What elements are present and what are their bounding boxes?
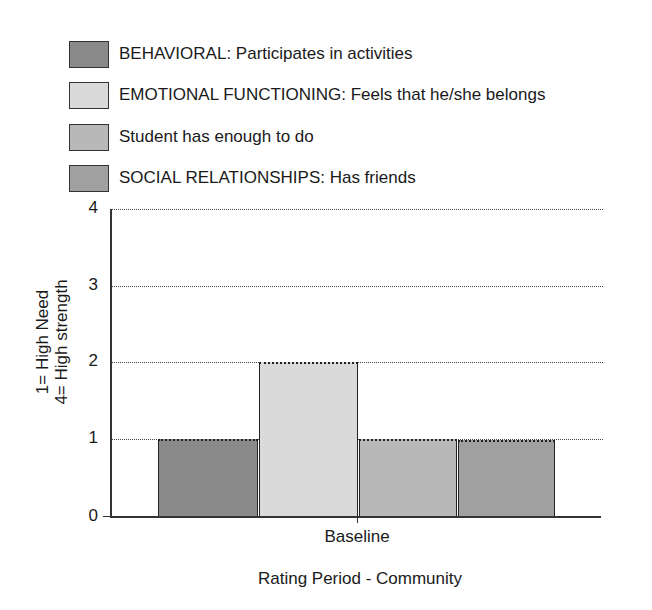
- y-axis-label: 1= High Need 4= High strength: [33, 262, 71, 422]
- x-axis-title: Rating Period - Community: [200, 569, 520, 589]
- bar-social-relationships: [458, 440, 555, 517]
- x-axis: [110, 516, 601, 518]
- bar-behavioral: [158, 439, 258, 517]
- y-tick-label: 0: [78, 506, 98, 526]
- y-tick-label: 2: [78, 351, 98, 371]
- legend-item-emotional: EMOTIONAL FUNCTIONING: Feels that he/she…: [69, 80, 545, 110]
- legend-label: SOCIAL RELATIONSHIPS: Has friends: [119, 168, 416, 188]
- legend-label: EMOTIONAL FUNCTIONING: Feels that he/she…: [119, 85, 545, 105]
- x-tick-mark: [357, 517, 358, 523]
- legend-item-social: SOCIAL RELATIONSHIPS: Has friends: [69, 163, 416, 193]
- y-axis: [110, 209, 112, 517]
- gridline-4: [110, 209, 603, 210]
- y-tick-label: 3: [78, 275, 98, 295]
- bar-emotional-functioning: [259, 362, 358, 517]
- legend-swatch: [69, 41, 109, 68]
- legend-item-behavioral: BEHAVIORAL: Participates in activities: [69, 39, 413, 69]
- y-tick-label: 1: [78, 428, 98, 448]
- legend-label: Student has enough to do: [119, 127, 314, 147]
- y-axis-label-line-1: 1= High Need: [33, 262, 52, 422]
- legend-item-enough-to-do: Student has enough to do: [69, 122, 314, 152]
- y-axis-label-line-2: 4= High strength: [52, 262, 71, 422]
- gridline-3: [110, 286, 603, 287]
- legend-swatch: [69, 124, 109, 151]
- legend-swatch: [69, 82, 109, 109]
- x-category-label: Baseline: [307, 527, 407, 547]
- bar-enough-to-do: [359, 439, 457, 517]
- y-tick-label: 4: [78, 198, 98, 218]
- legend-label: BEHAVIORAL: Participates in activities: [119, 44, 413, 64]
- legend-swatch: [69, 165, 109, 192]
- y-tick-mark: [103, 516, 110, 517]
